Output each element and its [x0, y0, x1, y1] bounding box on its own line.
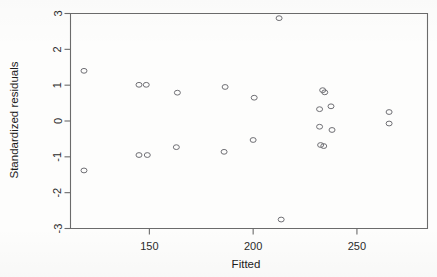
- x-tick-label-150: 150: [140, 240, 158, 252]
- data-point: [136, 82, 142, 87]
- data-point: [276, 16, 282, 21]
- x-axis-title: Fitted: [232, 258, 261, 270]
- data-point: [173, 145, 179, 150]
- data-point: [221, 149, 227, 154]
- residuals-vs-fitted-plot: 150200250 -3-2-10123 Fitted Standardized…: [0, 0, 437, 277]
- x-tick-label-250: 250: [348, 240, 366, 252]
- plot-frame: [71, 14, 428, 229]
- data-point: [278, 217, 284, 222]
- data-point: [143, 82, 149, 87]
- data-point: [317, 107, 323, 112]
- data-point: [317, 124, 323, 129]
- data-point: [328, 104, 334, 109]
- y-tick-label-0: 0: [52, 118, 64, 124]
- y-tick-label-2: 2: [52, 46, 64, 52]
- y-axis-ticks: -3-2-10123: [52, 10, 71, 233]
- data-point: [329, 128, 335, 133]
- chart-canvas: 150200250 -3-2-10123 Fitted Standardized…: [0, 0, 437, 277]
- data-point: [222, 85, 228, 90]
- y-tick-label-1: 1: [52, 82, 64, 88]
- y-tick-label--1: -1: [52, 152, 64, 162]
- y-tick-label--3: -3: [52, 224, 64, 234]
- plot-border: [71, 14, 428, 229]
- data-point: [386, 121, 392, 126]
- data-point: [250, 138, 256, 143]
- data-point: [251, 95, 257, 100]
- data-point: [136, 153, 142, 158]
- data-point: [386, 110, 392, 115]
- y-tick-label--2: -2: [52, 188, 64, 198]
- data-point: [81, 168, 87, 173]
- data-points: [81, 16, 392, 222]
- y-tick-label-3: 3: [52, 10, 64, 16]
- data-point: [174, 90, 180, 95]
- data-point: [81, 68, 87, 73]
- x-tick-label-200: 200: [244, 240, 262, 252]
- x-axis-ticks: 150200250: [140, 229, 366, 252]
- data-point: [144, 153, 150, 158]
- y-axis-title: Standardized residuals: [8, 61, 20, 178]
